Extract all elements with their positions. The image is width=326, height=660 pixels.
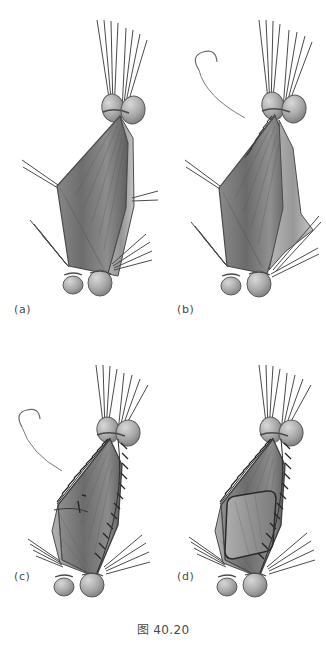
panel-d-illustration — [163, 330, 326, 630]
panel-a-illustration — [0, 8, 163, 308]
panel-b: (b) — [163, 8, 326, 308]
panel-c-label: (c) — [14, 570, 30, 583]
clamp-head-bottom-right — [247, 271, 271, 297]
figure-caption: 图 40.20 — [0, 620, 326, 637]
clamp-head-bottom-left — [63, 276, 83, 294]
clamp-band-bottom-left — [222, 274, 240, 276]
suture-retractor-left — [22, 160, 58, 188]
clamp-head-bottom-right — [88, 270, 112, 296]
suture-thread-trailing — [199, 70, 245, 118]
panel-a-label: (a) — [14, 303, 31, 316]
panel-b-label: (b) — [177, 303, 194, 316]
panel-d: (d) — [163, 330, 326, 630]
clamp-head-bottom-right — [80, 573, 104, 597]
panel-c: (c) — [0, 330, 163, 630]
clamp-head-bottom-right — [243, 573, 267, 597]
surgical-figure: (a) — [0, 0, 326, 660]
surgical-needle — [195, 51, 217, 70]
clamp-band-bottom-left — [55, 575, 73, 577]
clamp-band-bottom-left — [218, 575, 236, 577]
panel-c-illustration — [0, 330, 163, 630]
panel-b-illustration — [163, 8, 326, 308]
suture-thread-trailing — [22, 427, 62, 471]
clamp-band-bottom-left — [64, 273, 82, 275]
clamp-head-bottom-left — [54, 578, 74, 596]
panel-d-label: (d) — [177, 570, 194, 583]
clamp-head-bottom-left — [221, 277, 241, 295]
suture-retractor-right — [132, 191, 158, 201]
suture-retractor-left — [185, 160, 220, 189]
suture-bundle-bottom-left — [191, 222, 228, 267]
surgical-needle — [19, 409, 40, 427]
clamp-head-bottom-left — [217, 578, 237, 596]
panel-a: (a) — [0, 8, 163, 308]
